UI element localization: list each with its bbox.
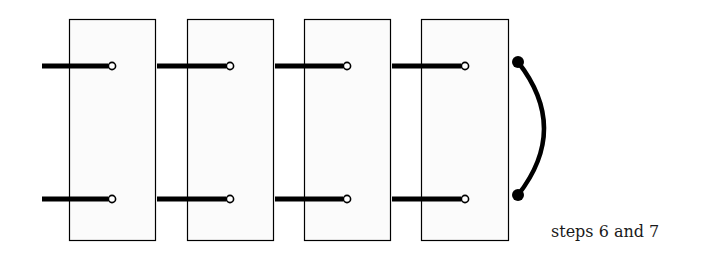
block-1 — [70, 20, 156, 241]
rod-end-icon — [108, 62, 115, 69]
rod-end-icon — [343, 195, 350, 202]
caption: steps 6 and 7 — [551, 222, 659, 241]
block-4 — [422, 20, 509, 241]
rod-end-icon — [343, 62, 350, 69]
curved-connector — [518, 62, 544, 195]
connector-joint-icon — [512, 56, 524, 68]
rod-end-icon — [461, 195, 468, 202]
connector-joint-icon — [512, 189, 524, 201]
rod-end-icon — [108, 195, 115, 202]
rod-end-icon — [226, 62, 233, 69]
block-3 — [305, 20, 391, 241]
block-2 — [188, 20, 274, 241]
rod-end-icon — [226, 195, 233, 202]
rod-end-icon — [461, 62, 468, 69]
